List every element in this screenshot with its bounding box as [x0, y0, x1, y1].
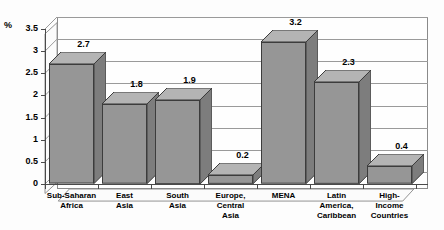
y-axis-tick-label: 0.5 [4, 157, 38, 166]
y-axis-tick-label: 3 [4, 46, 38, 55]
y-axis-tick [41, 140, 45, 141]
bar-column [367, 154, 424, 184]
x-axis-category-label: Europe, Central Asia [204, 191, 257, 221]
bar-value-label: 3.2 [273, 17, 318, 27]
y-axis-tick-label: 1.5 [4, 113, 38, 122]
y-axis-line [45, 29, 46, 184]
y-axis-tick [41, 95, 45, 96]
x-axis-category-label: East Asia [98, 191, 151, 211]
y-axis-tick [41, 51, 45, 52]
y-axis-tick [41, 162, 45, 163]
y-axis-tick [41, 29, 45, 30]
bar-value-label: 0.4 [379, 141, 424, 151]
x-axis-tick [151, 185, 152, 189]
bar-column [49, 52, 106, 184]
gridline [57, 61, 428, 62]
bar-value-label: 2.3 [326, 57, 371, 67]
x-axis-tick [45, 185, 46, 189]
bar-chart: % 00.511.522.533.5 2.71.81.90.23.22.30.4… [0, 0, 444, 230]
y-axis-tick-label: 3.5 [4, 24, 38, 33]
y-axis-tick [41, 118, 45, 119]
gridline [57, 17, 428, 18]
bar-column [261, 30, 318, 184]
bar-value-label: 1.9 [167, 75, 212, 85]
x-axis-tick [257, 185, 258, 189]
gridline [57, 83, 428, 84]
x-axis-tick [204, 185, 205, 189]
y-axis-tick-label: 2 [4, 90, 38, 99]
y-axis-tick-label: 2.5 [4, 68, 38, 77]
bar-column [314, 70, 371, 184]
x-axis-category-label: High- Income Countries [363, 191, 416, 221]
x-axis-line [45, 184, 428, 185]
bar-column [102, 92, 159, 184]
x-axis-category-label: MENA [257, 191, 310, 201]
x-axis-category-label: Latin America, Caribbean [310, 191, 363, 221]
x-axis-category-label: South Asia [151, 191, 204, 211]
gridline [57, 39, 428, 40]
bar-value-label: 1.8 [114, 79, 159, 89]
y-axis-tick [41, 73, 45, 74]
bar-value-label: 0.2 [220, 150, 265, 160]
y-axis-tick-label: 0 [4, 179, 38, 188]
x-axis-tick [98, 185, 99, 189]
bar-column [208, 163, 265, 184]
x-axis-category-label: Sub-Saharan Africa [45, 191, 98, 211]
bar-column [155, 88, 212, 184]
x-axis-tick [310, 185, 311, 189]
x-axis-tick [363, 185, 364, 189]
x-axis-tick [416, 185, 417, 189]
y-axis-tick-label: 1 [4, 135, 38, 144]
bar-value-label: 2.7 [61, 39, 106, 49]
